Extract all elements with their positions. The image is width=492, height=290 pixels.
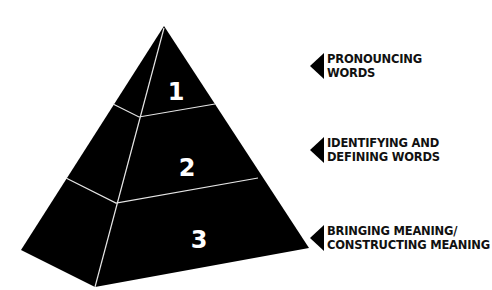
- tier-3-label-line-2: CONSTRUCTING MEANING: [327, 238, 490, 252]
- tier-1-label: PRONOUNCING WORDS: [310, 52, 422, 80]
- left-arrow-icon: [310, 53, 324, 79]
- tier-2-number: 2: [179, 154, 196, 182]
- tier-2-label-line-1: IDENTIFYING AND: [327, 136, 440, 150]
- tier-3-label: BRINGING MEANING/ CONSTRUCTING MEANING: [310, 224, 490, 252]
- tier-2-label-line-2: DEFINING WORDS: [327, 150, 440, 164]
- tier-1-label-line-2: WORDS: [327, 66, 422, 80]
- pyramid-body: [21, 26, 309, 287]
- tier-2-label: IDENTIFYING AND DEFINING WORDS: [310, 136, 440, 164]
- tier-3-label-line-1: BRINGING MEANING/: [327, 224, 490, 238]
- tier-1-label-line-1: PRONOUNCING: [327, 52, 422, 66]
- left-arrow-icon: [310, 137, 324, 163]
- tier-3-number: 3: [191, 226, 208, 254]
- left-arrow-icon: [310, 225, 324, 251]
- tier-1-number: 1: [168, 78, 185, 106]
